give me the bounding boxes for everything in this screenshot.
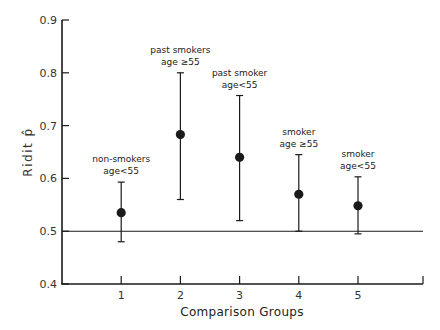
- data-point-group-1: non-smokersage<55: [92, 154, 150, 242]
- ridit-chart: 0.40.50.60.70.80.9 12345 non-smokersage<…: [0, 0, 440, 330]
- point-marker: [235, 153, 244, 162]
- data-point-group-5: smokerage<55: [340, 149, 376, 234]
- point-marker: [176, 130, 185, 139]
- annotation-line1: smoker: [341, 149, 374, 159]
- data-point-group-3: past smokerage<55: [212, 68, 268, 221]
- point-marker: [117, 208, 126, 217]
- x-tick-label: 5: [355, 289, 362, 302]
- annotation-line1: past smokers: [150, 45, 210, 55]
- y-tick-label: 0.7: [40, 120, 58, 133]
- x-tick-label: 1: [118, 289, 125, 302]
- x-axis-ticks: 12345: [118, 276, 362, 302]
- data-series: non-smokersage<55past smokersage ≥55past…: [92, 45, 376, 242]
- annotation-line2: age<55: [340, 161, 376, 171]
- point-marker: [353, 201, 362, 210]
- data-point-group-4: smokerage ≥55: [279, 127, 318, 232]
- y-tick-label: 0.6: [40, 172, 58, 185]
- y-axis-label: Ridit p̂: [21, 127, 35, 176]
- x-tick-label: 4: [295, 289, 302, 302]
- y-tick-label: 0.4: [40, 278, 58, 291]
- point-marker: [294, 190, 303, 199]
- x-tick-label: 3: [236, 289, 243, 302]
- annotation-line2: age<55: [222, 80, 258, 90]
- y-tick-label: 0.5: [40, 225, 58, 238]
- y-axis-ticks: 0.40.50.60.70.80.9: [40, 14, 70, 291]
- y-tick-label: 0.9: [40, 14, 58, 27]
- annotation-line2: age ≥55: [279, 139, 318, 149]
- annotation-line1: past smoker: [212, 68, 268, 78]
- data-point-group-2: past smokersage ≥55: [150, 45, 210, 200]
- annotation-line1: smoker: [282, 127, 315, 137]
- annotation-line2: age ≥55: [161, 57, 200, 67]
- x-axis-label: Comparison Groups: [180, 305, 304, 319]
- y-tick-label: 0.8: [40, 67, 58, 80]
- annotation-line1: non-smokers: [92, 154, 150, 164]
- x-tick-label: 2: [177, 289, 184, 302]
- annotation-line2: age<55: [103, 166, 139, 176]
